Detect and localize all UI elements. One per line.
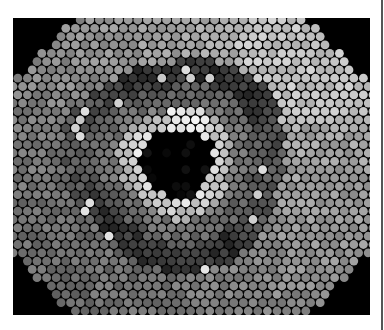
fiber-bundle-image (13, 18, 370, 315)
fiber-cells (13, 18, 370, 315)
vertical-divider (381, 0, 383, 330)
